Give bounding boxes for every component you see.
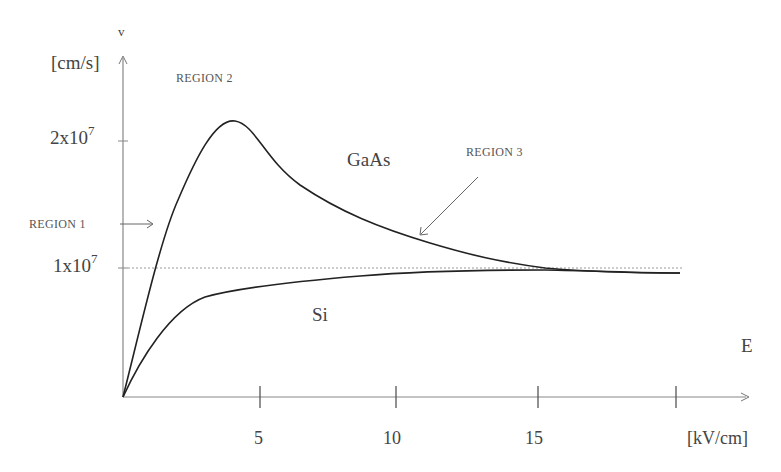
x-tick-label-5: 5 bbox=[254, 428, 263, 449]
region3-label: REGION 3 bbox=[466, 145, 523, 160]
si-curve bbox=[123, 270, 680, 397]
y-tick-label-1e7-exp: 7 bbox=[91, 251, 98, 266]
gaas-label: GaAs bbox=[347, 149, 390, 171]
x-axis-name: E bbox=[741, 335, 753, 357]
y-tick-label-2e7: 2x107 bbox=[50, 127, 95, 149]
y-tick-label-1e7: 1x107 bbox=[53, 255, 98, 277]
velocity-field-chart bbox=[0, 0, 781, 472]
si-label: Si bbox=[312, 304, 328, 326]
region1-label: REGION 1 bbox=[29, 217, 86, 232]
region2-label: REGION 2 bbox=[176, 71, 233, 86]
y-tick-label-2e7-base: 2x10 bbox=[50, 127, 88, 148]
region3-arrow bbox=[421, 177, 478, 234]
x-axis-unit: [kV/cm] bbox=[687, 428, 748, 449]
x-tick-label-10: 10 bbox=[383, 428, 401, 449]
gaas-curve bbox=[123, 121, 680, 397]
x-tick-label-15: 15 bbox=[525, 428, 543, 449]
y-axis-name: v bbox=[118, 24, 125, 40]
y-axis-unit: [cm/s] bbox=[51, 52, 100, 74]
y-tick-label-2e7-exp: 7 bbox=[88, 123, 95, 138]
y-tick-label-1e7-base: 1x10 bbox=[53, 255, 91, 276]
